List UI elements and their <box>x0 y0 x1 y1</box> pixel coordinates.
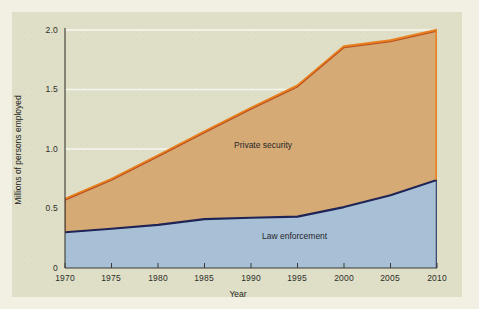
x-tick-label-1970: 1970 <box>52 273 78 283</box>
x-tick-label-2000: 2000 <box>331 273 357 283</box>
x-tick-label-2005: 2005 <box>377 273 403 283</box>
y-tick-label-1-5: 1.5 <box>36 84 58 94</box>
y-tick-label-1-0: 1.0 <box>36 144 58 154</box>
series-label-private-security: Private security <box>234 140 292 150</box>
chart-figure: 2.0 1.5 1.0 0.5 0 1970 1975 1980 1985 19… <box>0 0 479 309</box>
x-tick-label-2010: 2010 <box>424 273 450 283</box>
series-label-law-enforcement: Law enforcement <box>262 231 327 241</box>
x-axis-title: Year <box>229 289 246 299</box>
y-axis-title: Millions of persons employed <box>13 95 23 205</box>
y-tick-label-0-5: 0.5 <box>36 203 58 213</box>
x-tick-label-1995: 1995 <box>284 273 310 283</box>
x-tick-label-1990: 1990 <box>238 273 264 283</box>
x-tick-label-1980: 1980 <box>145 273 171 283</box>
x-tick-label-1985: 1985 <box>191 273 217 283</box>
stacked-area-chart <box>0 0 479 309</box>
y-tick-label-2-0: 2.0 <box>36 25 58 35</box>
y-tick-label-0: 0 <box>36 263 58 273</box>
x-tick-label-1975: 1975 <box>98 273 124 283</box>
